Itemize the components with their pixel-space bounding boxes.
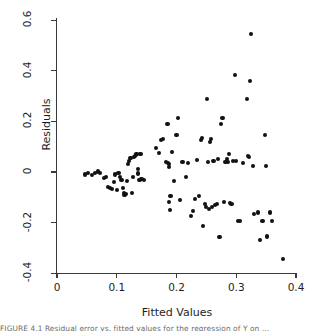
- scatter-point: [121, 186, 125, 190]
- scatter-point: [268, 210, 272, 214]
- x-tick-mark: [56, 273, 57, 278]
- scatter-point: [265, 234, 269, 238]
- scatter-point: [131, 175, 135, 179]
- scatter-point: [139, 152, 143, 156]
- scatter-point: [168, 194, 172, 198]
- scatter-point: [174, 133, 178, 137]
- scatter-point: [281, 257, 285, 261]
- scatter-plot-area: [57, 19, 296, 273]
- scatter-point: [227, 152, 231, 156]
- y-tick-label: -0.4: [21, 255, 33, 289]
- scatter-point: [238, 219, 242, 223]
- scatter-point: [186, 161, 190, 165]
- scatter-point: [215, 202, 219, 206]
- scatter-point: [229, 202, 233, 206]
- scatter-point: [205, 97, 209, 101]
- scatter-point: [189, 214, 193, 218]
- scatter-point: [258, 238, 262, 242]
- scatter-point: [119, 178, 123, 182]
- scatter-point: [168, 208, 172, 212]
- scatter-point: [115, 188, 119, 192]
- scatter-point: [263, 133, 267, 137]
- scatter-point: [209, 137, 213, 141]
- scatter-point: [157, 151, 161, 155]
- scatter-point: [249, 32, 253, 36]
- scatter-point: [234, 159, 238, 163]
- scatter-point: [200, 136, 204, 140]
- scatter-point: [178, 198, 182, 202]
- scatter-point: [248, 79, 252, 83]
- scatter-point: [112, 180, 116, 184]
- scatter-point: [201, 224, 205, 228]
- x-tick-label: 0.1: [102, 281, 132, 293]
- figure-caption: FIGURE 4.1 Residual error vs. fitted val…: [0, 324, 314, 331]
- scatter-point: [176, 116, 180, 120]
- y-tick-label: 0.2: [21, 103, 33, 137]
- scatter-point: [170, 150, 174, 154]
- scatter-point: [98, 171, 102, 175]
- y-tick-label: -0.2: [21, 205, 33, 239]
- figure-residuals-vs-fitted: -0.4-0.200.20.40.6 00.10.20.30.4 Residua…: [0, 0, 314, 331]
- x-tick-mark: [176, 273, 177, 278]
- scatter-point: [172, 179, 176, 183]
- scatter-point: [124, 192, 128, 196]
- scatter-point: [251, 164, 255, 168]
- scatter-point: [197, 194, 201, 198]
- scatter-point: [125, 179, 129, 183]
- x-tick-mark: [116, 273, 117, 278]
- scatter-point: [270, 219, 274, 223]
- scatter-point: [136, 167, 140, 171]
- y-axis-title: Residuals: [40, 85, 53, 165]
- x-tick-label: 0.3: [221, 281, 251, 293]
- scatter-point: [110, 187, 114, 191]
- y-tick-label: 0.6: [21, 2, 33, 36]
- scatter-point: [165, 122, 169, 126]
- scatter-point: [130, 191, 134, 195]
- x-tick-mark: [295, 273, 296, 278]
- scatter-point: [245, 97, 249, 101]
- y-tick-label: 0.4: [21, 53, 33, 87]
- x-tick-label: 0.4: [281, 281, 311, 293]
- scatter-point: [217, 235, 221, 239]
- x-tick-mark: [236, 273, 237, 278]
- x-axis-title: Fitted Values: [57, 306, 297, 319]
- scatter-point: [184, 175, 188, 179]
- scatter-point: [264, 164, 268, 168]
- scatter-point: [142, 178, 146, 182]
- scatter-point: [222, 200, 226, 204]
- scatter-point: [180, 160, 184, 164]
- scatter-point: [167, 200, 171, 204]
- scatter-point: [260, 219, 264, 223]
- scatter-point: [104, 175, 108, 179]
- scatter-point: [241, 161, 245, 165]
- scatter-point: [195, 158, 199, 162]
- scatter-point: [233, 73, 237, 77]
- x-tick-label: 0: [42, 281, 72, 293]
- scatter-point: [216, 157, 220, 161]
- scatter-point: [161, 137, 165, 141]
- scatter-point: [136, 171, 140, 175]
- scatter-point: [256, 210, 260, 214]
- scatter-point: [226, 160, 230, 164]
- scatter-point: [191, 209, 195, 213]
- scatter-point: [219, 122, 223, 126]
- scatter-point: [211, 159, 215, 163]
- scatter-point: [154, 146, 158, 150]
- y-tick-label: 0: [21, 154, 33, 188]
- scatter-point: [220, 116, 224, 120]
- scatter-point: [206, 160, 210, 164]
- x-tick-label: 0.2: [162, 281, 192, 293]
- scatter-point: [247, 155, 251, 159]
